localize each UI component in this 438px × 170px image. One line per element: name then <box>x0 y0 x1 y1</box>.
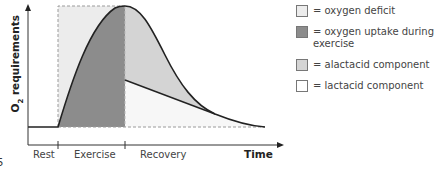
swatch-icon <box>296 80 308 92</box>
y-axis-arrow-icon <box>25 4 31 11</box>
page-number-fragment: 5 <box>0 157 3 168</box>
phase-label-rest: Rest <box>33 149 55 160</box>
swatch-icon <box>296 26 308 38</box>
legend-item-oxygen-deficit: = oxygen deficit <box>296 5 438 17</box>
oxygen-debt-diagram <box>0 0 290 170</box>
legend-item-oxygen-uptake: = oxygen uptake during exercise <box>296 26 438 50</box>
swatch-icon <box>296 59 308 71</box>
y-axis-label: O2 requirements <box>9 23 24 113</box>
legend: = oxygen deficit = oxygen uptake during … <box>296 5 438 101</box>
legend-item-lactacid: = lactacid component <box>296 80 438 92</box>
phase-label-recovery: Recovery <box>140 149 186 160</box>
x-axis-arrow-icon <box>277 142 284 148</box>
swatch-icon <box>296 5 308 17</box>
legend-item-alactacid: = alactacid component <box>296 59 438 71</box>
phase-label-exercise: Exercise <box>74 149 116 160</box>
x-axis-label: Time <box>244 148 273 160</box>
